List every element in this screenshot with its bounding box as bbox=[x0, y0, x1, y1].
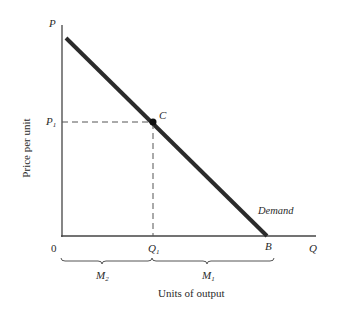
brace-m2 bbox=[61, 258, 152, 264]
q1-label: Q1 bbox=[148, 243, 159, 256]
p1-label: P1 bbox=[46, 116, 56, 129]
point-c bbox=[150, 119, 157, 126]
x-axis-title: Units of output bbox=[158, 288, 225, 299]
origin-label: 0 bbox=[51, 243, 57, 254]
demand-label: Demand bbox=[258, 206, 294, 217]
demand-curve bbox=[66, 38, 267, 236]
demand-diagram bbox=[0, 0, 337, 311]
x-axis-symbol: Q bbox=[309, 243, 317, 254]
y-axis-title: Price per unit bbox=[20, 108, 32, 188]
m2-label: M2 bbox=[96, 270, 109, 283]
y-axis-symbol: P bbox=[49, 18, 56, 29]
point-c-label: C bbox=[159, 110, 166, 121]
brace-m1 bbox=[152, 258, 274, 264]
m1-label: M1 bbox=[202, 270, 215, 283]
point-b-label: B bbox=[265, 241, 272, 252]
